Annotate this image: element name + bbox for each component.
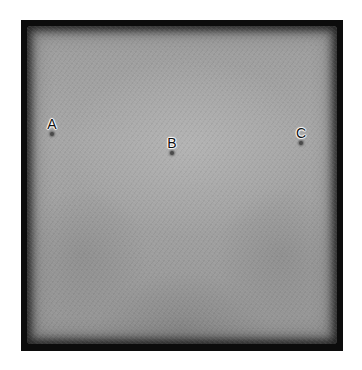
marker-dot-icon bbox=[50, 132, 54, 136]
image-frame bbox=[21, 20, 343, 351]
marker-dot-icon bbox=[299, 141, 303, 145]
marker-label: B bbox=[167, 136, 176, 150]
marker-label: A bbox=[47, 117, 56, 131]
marker-b: B bbox=[162, 136, 182, 164]
marker-a: A bbox=[42, 117, 62, 145]
image-plate bbox=[27, 26, 337, 344]
texture-overlay bbox=[27, 26, 337, 344]
marker-dot-icon bbox=[170, 151, 174, 155]
marker-c: C bbox=[291, 126, 311, 154]
marker-label: C bbox=[296, 126, 306, 140]
